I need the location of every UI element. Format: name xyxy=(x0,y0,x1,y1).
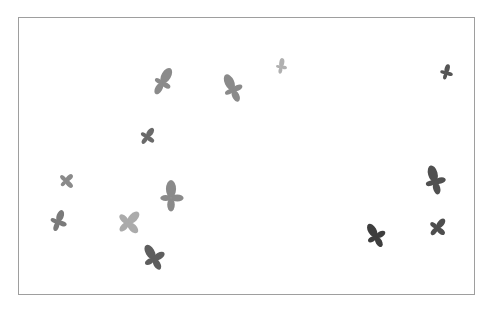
propeller-shape-icon xyxy=(112,204,148,240)
propeller-shape-icon xyxy=(422,163,449,197)
propeller-shape-icon xyxy=(137,124,161,148)
propeller-shapes-canvas xyxy=(0,0,489,312)
propeller-shape-icon xyxy=(439,63,456,82)
propeller-shape-icon xyxy=(47,208,70,234)
propeller-shape-icon xyxy=(56,169,79,192)
propeller-shape-icon xyxy=(425,214,452,241)
propeller-shape-icon xyxy=(218,70,248,105)
propeller-shape-icon xyxy=(160,180,183,212)
propeller-shape-icon xyxy=(361,219,391,251)
propeller-shape-icon xyxy=(275,57,289,74)
propeller-shape-icon xyxy=(149,64,179,98)
propeller-shape-icon xyxy=(137,239,170,274)
